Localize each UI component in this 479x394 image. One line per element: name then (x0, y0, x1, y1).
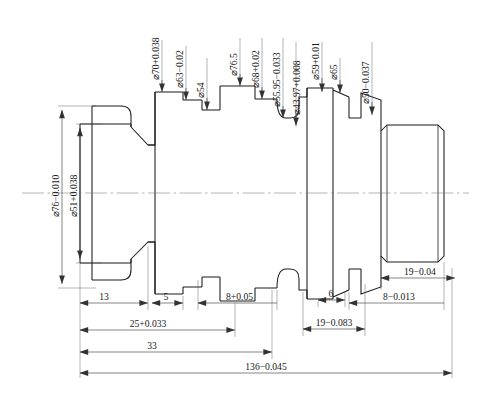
dim-label-6: 6 (329, 288, 334, 299)
dim-label-d76-5: ⌀76.5 (228, 53, 239, 76)
step-65-profile (333, 88, 349, 299)
dim-label-d68: ⌀68+0.02 (250, 50, 261, 88)
dim-label-19b: 19−0.04 (404, 266, 436, 277)
bottom-length-dimensions: 13 5 8+0.05 25+0.033 33 6 19−0.083 19−0.… (80, 266, 455, 373)
undercut-profile (349, 118, 361, 269)
step-43-97-profile (290, 97, 307, 290)
left-journal-profile (80, 124, 131, 263)
dim-label-d65: ⌀65 (328, 64, 339, 80)
bottom-extension-lines (80, 246, 452, 378)
dim-label-d43-97: ⌀43.97+0.008 (291, 60, 302, 115)
groove-profile (277, 99, 290, 288)
step-59-profile (307, 88, 333, 299)
dim-label-8plus: 8+0.05 (226, 291, 253, 302)
dim-label-d76: ⌀76−0.010 (50, 175, 61, 218)
dim-label-d55-95: ⌀55.95−0.033 (271, 52, 282, 107)
end-shaft-chamfer-lines (387, 125, 438, 262)
dim-label-25: 25+0.033 (130, 318, 167, 329)
dim-label-8minus: 8−0.013 (383, 291, 415, 302)
dim-label-d70: ⌀70+0.038 (150, 37, 161, 80)
part-outline (80, 86, 444, 301)
dim-label-d51: ⌀51+0.038 (68, 175, 79, 218)
dim-label-d63: ⌀63−0.02 (174, 50, 185, 88)
dim-label-d50: ⌀50−0.037 (360, 61, 371, 104)
step-68-profile (255, 86, 277, 301)
step-50-profile (361, 93, 381, 294)
dim-label-19a: 19−0.083 (316, 317, 353, 328)
dim-label-33: 33 (147, 340, 157, 351)
engineering-drawing-canvas: ⌀76−0.010 ⌀51+0.038 ⌀70+0.038 ⌀63−0.02 ⌀… (0, 0, 479, 394)
top-diameter-dimensions: ⌀70+0.038 ⌀63−0.02 ⌀54 ⌀76.5 ⌀68+0.02 ⌀5… (150, 37, 372, 126)
dim-label-5: 5 (164, 291, 169, 302)
dim-label-d54: ⌀54 (195, 82, 206, 98)
dim-label-136: 136−0.045 (245, 361, 287, 372)
dim-label-13: 13 (99, 291, 109, 302)
dim-label-d59: ⌀59+0.01 (310, 42, 321, 80)
step-54-profile (202, 100, 220, 287)
left-diameter-dimensions: ⌀76−0.010 ⌀51+0.038 (50, 106, 102, 288)
collar-76-5-profile (220, 86, 255, 301)
end-shaft-profile (381, 125, 444, 262)
